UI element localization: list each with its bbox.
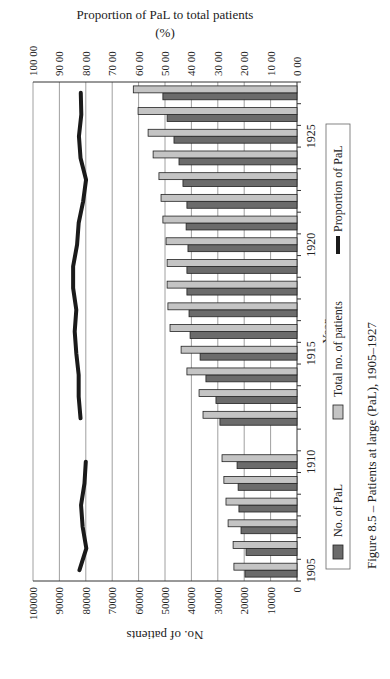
y-left-axis-title: No. of patients — [127, 628, 204, 643]
bar-pal — [216, 397, 297, 404]
bar-pal — [190, 332, 297, 339]
bar-total — [222, 455, 297, 462]
bar-pal — [186, 223, 297, 230]
bar-total — [168, 303, 297, 310]
bar-total — [170, 325, 297, 332]
bar-total — [226, 498, 297, 505]
bar-pal — [187, 266, 297, 273]
bar-total — [133, 86, 297, 93]
y-left-tick-label: 50000 — [159, 587, 171, 615]
x-tick-label: 1925 — [304, 124, 318, 148]
x-tick-label: 1920 — [304, 233, 318, 257]
y-right-tick-label: 80 00 — [80, 51, 92, 76]
proportion-line — [79, 462, 86, 570]
y-left-tick-label: 90000 — [53, 587, 65, 615]
x-tick-label: 1910 — [304, 450, 318, 474]
bar-total — [203, 411, 297, 418]
bar-pal — [188, 245, 297, 252]
bar-total — [224, 476, 297, 483]
bar-pal — [183, 180, 297, 187]
rotated-figure: 0100002000030000400005000060000700008000… — [0, 0, 390, 679]
y-left-tick-label: 40000 — [185, 587, 197, 615]
y-right-tick-label: 70 00 — [106, 51, 118, 76]
bar-pal — [167, 115, 297, 122]
bar-total — [181, 346, 297, 353]
bar-pal — [163, 93, 297, 100]
bar-total — [199, 390, 297, 397]
y-right-tick-label: 90 00 — [53, 51, 65, 76]
bar-pal — [187, 288, 297, 295]
y-left-tick-label: 80000 — [80, 587, 92, 615]
y-right-tick-label: 50 00 — [159, 51, 171, 76]
y-right-tick-label: 100 00 — [27, 45, 39, 76]
y-right-axis-title: Proportion of PaL to total patients — [77, 7, 254, 22]
legend-swatch — [333, 405, 343, 419]
y-left-tick-label: 0 — [291, 587, 303, 593]
bar-total — [159, 173, 297, 180]
bar-pal — [189, 310, 297, 317]
bar-pal — [238, 483, 297, 490]
bar-pal — [245, 570, 297, 577]
y-left-tick-label: 100000 — [27, 587, 39, 621]
y-left-tick-label: 20000 — [238, 587, 250, 615]
bar-total — [233, 542, 297, 549]
bar-pal — [200, 353, 297, 360]
y-left-tick-label: 60000 — [133, 587, 145, 615]
bar-pal — [187, 201, 297, 208]
bar-pal — [237, 462, 297, 469]
bar-total — [153, 151, 297, 158]
y-left-tick-label: 30000 — [212, 587, 224, 615]
y-left-tick-label: 70000 — [106, 587, 118, 615]
bar-pal — [174, 136, 297, 143]
chart-canvas: 0100002000030000400005000060000700008000… — [0, 0, 390, 679]
bar-total — [148, 129, 297, 136]
legend-label: No. of PaL — [331, 484, 345, 537]
x-tick-label: 1905 — [304, 558, 318, 582]
bar-total — [167, 259, 297, 266]
y-right-tick-label: 40 00 — [185, 51, 197, 76]
y-right-tick-label: 20 00 — [238, 51, 250, 76]
bar-total — [167, 281, 297, 288]
bar-total — [187, 368, 297, 375]
bar-pal — [220, 418, 297, 425]
y-right-tick-label: 0 00 — [291, 56, 303, 76]
bar-total — [228, 520, 297, 527]
bar-total — [138, 108, 297, 115]
legend-label: Total no. of patients — [331, 301, 345, 397]
bar-pal — [241, 527, 297, 534]
bar-pal — [206, 375, 297, 382]
y-right-tick-label: 60 00 — [133, 51, 145, 76]
bar-pal — [179, 158, 297, 165]
bar-pal — [246, 548, 297, 555]
y-right-axis-unit: (%) — [155, 25, 175, 40]
y-right-tick-label: 10 00 — [265, 51, 277, 76]
bar-total — [163, 216, 297, 223]
bar-pal — [239, 505, 297, 512]
legend-label: Proportion of PaL — [331, 145, 345, 232]
legend-swatch — [333, 545, 343, 559]
y-right-tick-label: 30 00 — [212, 51, 224, 76]
y-left-tick-label: 10000 — [265, 587, 277, 615]
bar-total — [161, 194, 297, 201]
proportion-line — [73, 93, 86, 418]
bar-total — [234, 563, 297, 570]
x-tick-label: 1915 — [304, 341, 318, 365]
bar-total — [166, 238, 297, 245]
figure-caption: Figure 8.5 – Patients at large (PaL), 19… — [364, 321, 379, 569]
